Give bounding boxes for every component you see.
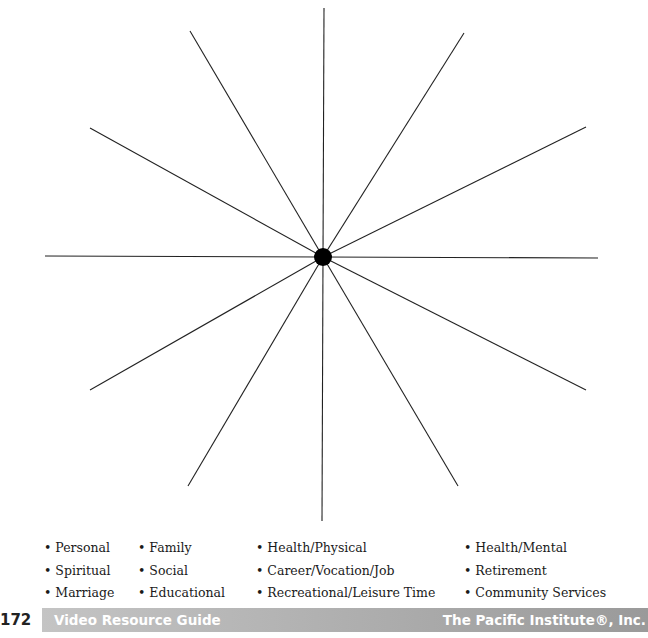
footer-left-title: Video Resource Guide <box>54 608 221 632</box>
spoke-line <box>190 31 323 257</box>
spoke-wheel-diagram <box>0 0 648 540</box>
page-number: 172 <box>0 608 40 632</box>
spoke-line <box>323 33 464 257</box>
spoke-line <box>90 128 323 257</box>
category-column-3: • Health/Physical • Career/Vocation/Job … <box>256 540 435 608</box>
center-hub <box>314 248 332 266</box>
category-column-2: • Family • Social • Educational <box>138 540 225 608</box>
category-column-1: • Personal • Spiritual • Marriage <box>44 540 114 608</box>
category-item: • Health/Mental <box>464 540 606 563</box>
footer-right-title: The Pacific Institute®, Inc. <box>443 608 646 632</box>
category-item: • Social <box>138 563 225 586</box>
category-item: • Educational <box>138 585 225 608</box>
footer-bar: Video Resource Guide The Pacific Institu… <box>42 608 648 632</box>
spoke-line <box>323 257 598 258</box>
category-item: • Health/Physical <box>256 540 435 563</box>
category-item: • Spiritual <box>44 563 114 586</box>
category-column-4: • Health/Mental • Retirement • Community… <box>464 540 606 608</box>
spoke-line <box>323 127 586 257</box>
category-item: • Career/Vocation/Job <box>256 563 435 586</box>
spoke-line <box>90 257 323 390</box>
category-item: • Marriage <box>44 585 114 608</box>
category-item: • Family <box>138 540 225 563</box>
spoke-line <box>322 257 323 521</box>
spoke-line <box>188 257 323 486</box>
category-item: • Retirement <box>464 563 606 586</box>
spoke-line <box>45 256 323 257</box>
page-footer: 172 Video Resource Guide The Pacific Ins… <box>0 608 648 632</box>
spoke-line <box>323 8 324 257</box>
category-item: • Community Services <box>464 585 606 608</box>
category-item: • Personal <box>44 540 114 563</box>
category-item: • Recreational/Leisure Time <box>256 585 435 608</box>
